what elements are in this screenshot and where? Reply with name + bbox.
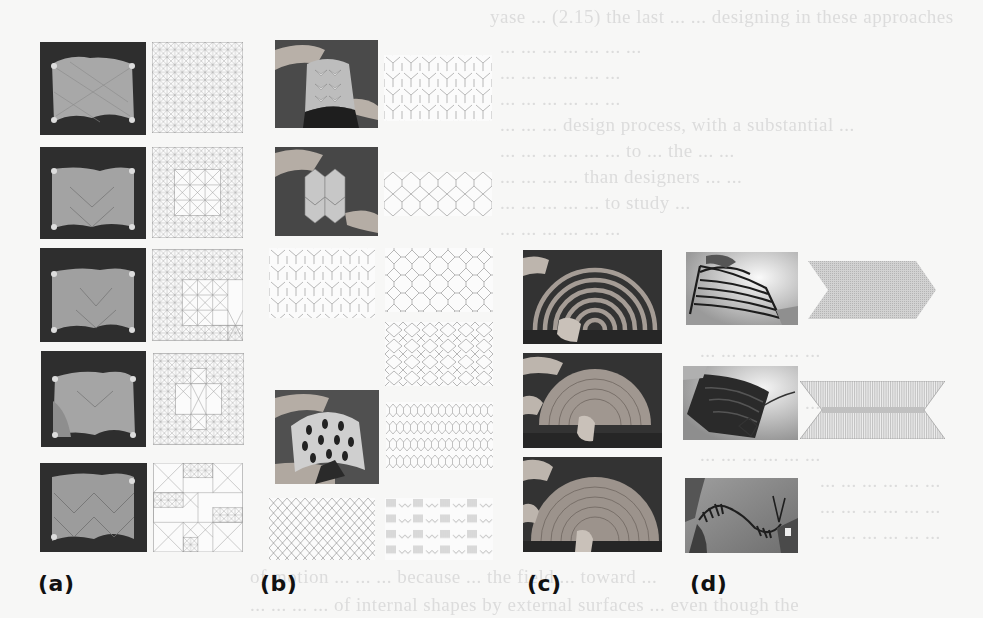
photo-a4 — [41, 351, 146, 447]
pattern-b6 — [386, 402, 493, 470]
bleed-line: of motion ... ... ... because ... the fi… — [250, 566, 657, 588]
photo-b1 — [275, 40, 378, 128]
bleed-line: ... ... ... ... ... ... to ... the ... .… — [500, 140, 735, 162]
pattern-d1-chevron — [808, 261, 936, 319]
pattern-a4 — [153, 353, 244, 445]
photo-c2 — [523, 353, 662, 448]
pattern-b1 — [384, 55, 492, 121]
pattern-a5 — [153, 463, 243, 552]
photo-b3 — [275, 390, 379, 484]
panel-label-c: (c) — [527, 571, 562, 596]
pattern-b2 — [384, 172, 492, 216]
photo-c3 — [523, 457, 662, 552]
photo-d1 — [686, 252, 798, 325]
bleed-line: ... ... ... ... ... ... — [500, 88, 621, 110]
photo-a3 — [40, 248, 146, 342]
panel-label-a: (a) — [38, 571, 74, 596]
pattern-d2-hourglass — [800, 381, 945, 439]
photo-a2 — [40, 147, 146, 239]
pattern-a2 — [152, 147, 243, 238]
panel-label-b: (b) — [260, 571, 297, 596]
pattern-b8 — [385, 498, 493, 560]
bleed-line: ... ... ... ... ... ... — [820, 522, 941, 544]
pattern-a1 — [152, 42, 243, 133]
bleed-line: ... ... ... ... ... ... — [500, 62, 621, 84]
pattern-b4 — [385, 248, 493, 312]
pattern-b7 — [269, 498, 375, 560]
bleed-line: ... ... ... ... ... ... — [500, 218, 621, 240]
bleed-line: ... ... ... ... ... ... — [700, 340, 821, 362]
photo-b2 — [275, 147, 378, 236]
bleed-line: ... ... ... ... than designers ... ... — [500, 166, 742, 188]
bleed-line: ... ... ... ... ... ... ... — [500, 36, 642, 58]
photo-d2 — [683, 366, 798, 440]
bleed-line: ... ... ... ... ... ... — [700, 444, 821, 466]
bleed-line: ... ... ... ... of internal shapes by ex… — [250, 594, 799, 616]
photo-a5 — [40, 463, 147, 552]
photo-d3 — [685, 478, 798, 553]
pattern-b5 — [385, 322, 493, 386]
bleed-line: ... ... ... ... ... to study ... — [500, 192, 691, 214]
photo-c1 — [523, 250, 662, 344]
bleed-line: ... ... ... design process, with a subst… — [500, 114, 855, 136]
panel-label-d: (d) — [690, 571, 727, 596]
pattern-a3 — [152, 249, 243, 341]
pattern-b3 — [269, 248, 375, 318]
bleed-line: ... ... ... ... ... ... — [820, 496, 941, 518]
photo-a1 — [40, 42, 146, 135]
bleed-line: ... ... ... ... ... ... — [820, 470, 941, 492]
bleed-line: yase ... (2.15) the last ... ... designi… — [490, 6, 954, 28]
